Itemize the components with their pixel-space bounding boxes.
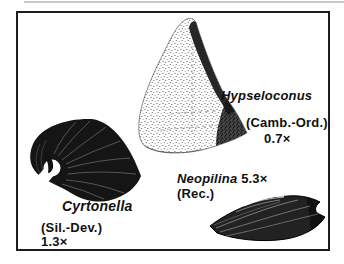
- neopilina-shell-illustration: [206, 188, 332, 248]
- hypseloconus-genus-label: Hypseloconus: [221, 89, 312, 103]
- cyrtonella-shell-illustration: [24, 114, 148, 204]
- cyrtonella-genus-label: Cyrtonella: [62, 199, 132, 214]
- hypseloconus-shell-illustration: [132, 12, 252, 158]
- hypseloconus-magnification-label: 0.7×: [264, 132, 290, 146]
- neopilina-name-line: Neopilina 5.3×: [177, 172, 268, 186]
- top-rule: [24, 1, 344, 3]
- neopilina-age-label: (Rec.): [177, 187, 214, 201]
- hypseloconus-age-label: (Camb.-Ord.): [246, 116, 328, 130]
- cyrtonella-age-label: (Sil.-Dev.): [41, 221, 102, 235]
- neopilina-magnification-label: 5.3×: [241, 171, 267, 186]
- cyrtonella-magnification-label: 1.3×: [41, 235, 67, 249]
- figure: Hypseloconus (Camb.-Ord.) 0.7× Neopilina…: [0, 0, 344, 264]
- neopilina-genus-label: Neopilina: [177, 171, 237, 186]
